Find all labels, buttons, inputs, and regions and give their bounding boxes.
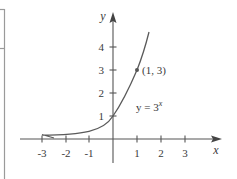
y-tick-label: 4 — [99, 41, 105, 53]
point-marker — [135, 68, 139, 72]
equation-base: y = 3 — [136, 101, 159, 113]
x-tick-label: 3 — [182, 147, 188, 159]
y-tick-label: 1 — [99, 110, 105, 122]
x-tick-label: 1 — [134, 147, 140, 159]
equation-exponent: x — [158, 99, 163, 108]
point-label: (1, 3) — [142, 64, 166, 77]
y-tick-label: 2 — [99, 87, 105, 99]
x-axis-label: x — [212, 143, 219, 157]
y-tick-label: 3 — [99, 64, 105, 76]
equation-label: y = 3x — [136, 99, 163, 113]
page-border — [0, 9, 5, 179]
exponential-curve — [42, 32, 149, 138]
x-tick-label: -2 — [61, 147, 70, 159]
exponential-graph: -3 -2 -1 1 2 3 1 2 3 4 x y (1, 3) y = 3x — [0, 0, 237, 179]
x-tick-label: -3 — [37, 147, 47, 159]
y-axis — [110, 12, 117, 163]
x-tick-label: -1 — [84, 147, 93, 159]
x-tick-label: 2 — [158, 147, 164, 159]
y-axis-label: y — [99, 9, 106, 23]
